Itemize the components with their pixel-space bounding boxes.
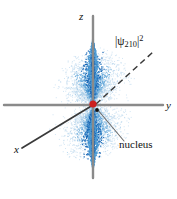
psi-subscript: 210 <box>125 40 137 49</box>
nucleus-dot <box>95 108 99 112</box>
psi-squared-label: |ψ210|2 <box>115 35 143 49</box>
nucleus-leader-line <box>97 109 124 141</box>
y-axis-label: y <box>166 100 171 111</box>
nucleus-label: nucleus <box>119 139 153 150</box>
z-axis-label: z <box>79 11 83 22</box>
x-axis-line <box>22 105 93 148</box>
psi-superscript: 2 <box>139 34 143 43</box>
psi-symbol: ψ <box>117 35 124 47</box>
nucleus-marker <box>89 100 96 107</box>
x-axis-label: x <box>14 144 19 155</box>
orbital-figure: z y x |ψ210|2 nucleus <box>0 0 177 199</box>
axes-layer <box>0 0 177 199</box>
psi-leader-line <box>96 52 153 104</box>
